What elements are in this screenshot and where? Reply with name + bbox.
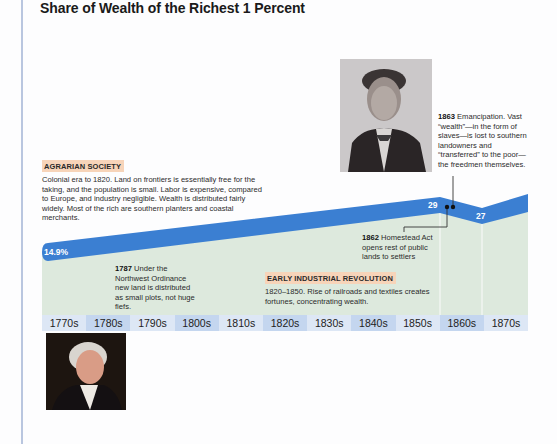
decade-1870s: 1870s <box>484 315 528 331</box>
era-text-agrarian: Colonial era to 1820. Land on frontiers … <box>42 175 270 223</box>
valley-value-label: 27 <box>476 211 485 221</box>
decade-1810s: 1810s <box>219 315 263 331</box>
washington-portrait-image <box>46 333 126 410</box>
decade-1790s: 1790s <box>130 315 174 331</box>
lincoln-portrait <box>340 59 432 172</box>
decade-1830s: 1830s <box>307 315 351 331</box>
annotation-1787-year: 1787 <box>115 264 132 273</box>
decade-1860s: 1860s <box>440 315 484 331</box>
decade-1820s: 1820s <box>263 315 307 331</box>
annotation-1863: 1863 Emancipation. Vast “wealth”—in the … <box>438 112 528 170</box>
annotation-1862: 1862 Homestead Act opens rest of public … <box>362 233 447 262</box>
era-tag-industrial: EARLY INDUSTRIAL REVOLUTION <box>265 272 396 284</box>
decade-1770s: 1770s <box>42 315 86 331</box>
decade-axis: 1770s 1780s 1790s 1800s 1810s 1820s 1830… <box>42 315 528 331</box>
decade-1780s: 1780s <box>86 315 130 331</box>
era-text-industrial: 1820–1850. Rise of railroads and textile… <box>265 287 430 306</box>
emancipation-dot <box>451 205 455 209</box>
washington-portrait <box>46 333 126 410</box>
homestead-dot <box>445 205 449 209</box>
lincoln-portrait-image <box>340 59 432 172</box>
start-value-label: 14.9% <box>44 247 68 257</box>
annotation-1787: 1787 Under the Northwest Ordinance new l… <box>115 264 197 312</box>
annotation-1863-year: 1863 <box>438 112 455 121</box>
decade-1840s: 1840s <box>351 315 395 331</box>
peak-value-label: 29 <box>428 200 437 210</box>
era-tag-agrarian: AGRARIAN SOCIETY <box>42 160 124 172</box>
annotation-1862-year: 1862 <box>362 233 379 242</box>
decade-1800s: 1800s <box>175 315 219 331</box>
decade-1850s: 1850s <box>396 315 440 331</box>
